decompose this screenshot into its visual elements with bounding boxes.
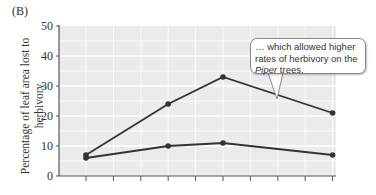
data-point (83, 155, 89, 161)
data-point (165, 101, 171, 107)
y-tick-label: 50 (41, 19, 53, 33)
data-point (330, 152, 336, 158)
callout-line-1: … which allowed higher (255, 41, 361, 53)
data-point (330, 110, 336, 116)
data-point (220, 140, 226, 146)
y-tick-label: 0 (47, 169, 53, 183)
y-tick-label: 30 (41, 79, 53, 93)
data-point (165, 143, 171, 149)
y-tick-label: 20 (41, 109, 53, 123)
y-tick-label: 40 (41, 49, 53, 63)
data-point (220, 74, 226, 80)
callout-line-3: Piper trees. (255, 64, 361, 76)
callout-rest: trees. (277, 64, 303, 75)
callout-line-2: rates of herbivory on the (255, 53, 361, 65)
callout-italic: Piper (255, 64, 277, 75)
line-chart: 01020304050 (0, 0, 376, 195)
y-tick-label: 10 (41, 139, 53, 153)
annotation-callout: … which allowed higher rates of herbivor… (250, 38, 366, 74)
